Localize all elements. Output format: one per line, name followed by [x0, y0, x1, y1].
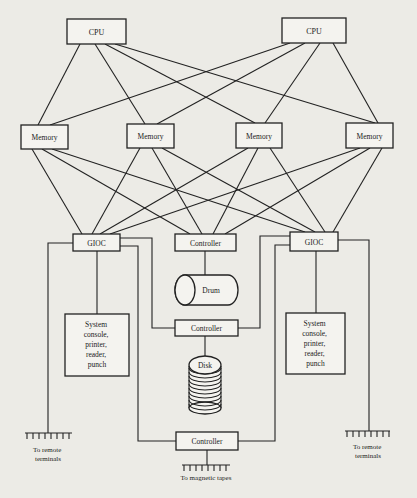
cpu-box-1: CPU [67, 19, 126, 44]
memory-box-4: Memory [346, 123, 393, 148]
drum-storage: Drum [175, 275, 238, 305]
gioc-box-2: GIOC [290, 232, 338, 251]
drum-label: Drum [202, 286, 220, 295]
memory-label: Memory [32, 133, 58, 142]
memory-box-2: Memory [127, 124, 174, 148]
gioc-label: GIOC [305, 238, 323, 247]
cpu-box-2: CPU [282, 18, 346, 43]
controller-label: Controller [190, 239, 221, 248]
cpu-label: CPU [306, 27, 322, 36]
magnetic-tapes-label: To magnetic tapes [181, 474, 232, 482]
system-console-box-2: System console, printer, reader, punch [286, 313, 345, 374]
remote-terminals-label-left: To remote terminals [33, 446, 63, 463]
gioc-box-1: GIOC [73, 234, 120, 251]
remote-terminals-label-right: To remote terminals [353, 443, 383, 460]
controller-label: Controller [191, 324, 222, 333]
terminal-bar-left [25, 433, 72, 439]
terminal-bar-right [345, 431, 390, 437]
system-console-box-1: System console, printer, reader, punch [65, 314, 129, 376]
cpu-label: CPU [89, 28, 105, 37]
memory-box-3: Memory [236, 123, 282, 148]
cpu-memory-wires [38, 43, 378, 125]
terminal-bar-tapes [182, 465, 230, 471]
disk-label: Disk [198, 361, 212, 370]
memory-io-wires [32, 148, 382, 234]
memory-label: Memory [357, 132, 383, 141]
controller-box-tape: Controller [176, 432, 238, 450]
disk-storage: Disk [189, 356, 221, 414]
memory-label: Memory [138, 132, 164, 141]
gioc-label: GIOC [87, 239, 105, 248]
memory-label: Memory [246, 132, 272, 141]
architecture-diagram: CPU CPU Memory Memory Memory Memory GIOC… [0, 0, 417, 498]
memory-box-1: Memory [21, 125, 68, 149]
controller-box-drum: Controller [175, 234, 236, 251]
controller-box-disk: Controller [175, 320, 238, 336]
controller-label: Controller [192, 437, 223, 446]
